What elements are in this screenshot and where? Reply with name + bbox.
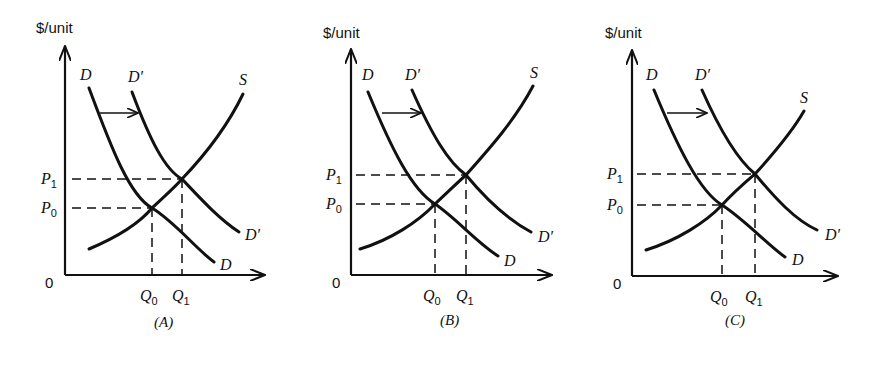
tick-q1: Q1 xyxy=(456,287,474,307)
tick-q1: Q1 xyxy=(172,287,190,307)
origin-label: 0 xyxy=(332,274,340,291)
caption-a: (A) xyxy=(154,314,173,331)
label-d-top: D xyxy=(361,66,374,83)
tick-q0: Q0 xyxy=(140,287,158,307)
label-s: S xyxy=(800,89,808,106)
tick-q0: Q0 xyxy=(710,288,728,308)
label-d-bottom: D xyxy=(791,251,804,268)
supply-curve-s xyxy=(89,94,243,249)
label-s: S xyxy=(530,64,538,81)
tick-p1: P1 xyxy=(606,165,623,185)
origin-label: 0 xyxy=(45,274,53,291)
tick-p1: P1 xyxy=(40,170,57,190)
demand-curve-d xyxy=(89,88,214,262)
tick-p0: P0 xyxy=(325,195,342,215)
equilibrium-dashed-lines xyxy=(72,179,182,274)
tick-p0: P0 xyxy=(40,199,57,219)
tick-p1: P1 xyxy=(325,166,342,186)
demand-curve-d xyxy=(368,92,498,256)
supply-demand-figure: $/unit 0 D D′ S D′ D P1 P0 Q0 Q1 (A) $/u… xyxy=(0,0,874,385)
label-d-bottom: D xyxy=(219,256,232,273)
label-d-prime-top: D′ xyxy=(127,68,144,85)
panel-a: $/unit 0 D D′ S D′ D P1 P0 Q0 Q1 (A) xyxy=(36,19,265,331)
label-d-prime-top: D′ xyxy=(404,66,421,83)
label-d-bottom: D xyxy=(503,252,516,269)
label-d-prime-top: D′ xyxy=(694,66,711,83)
panel-b: $/unit 0 D D′ S D′ D P1 P0 Q0 Q1 (B) xyxy=(323,24,554,329)
label-d-top: D xyxy=(645,66,658,83)
caption-b: (B) xyxy=(440,312,459,329)
supply-curve-s xyxy=(360,86,533,249)
label-d-prime-bottom: D′ xyxy=(244,226,261,243)
y-axis-label: $/unit xyxy=(36,19,74,36)
y-axis-label: $/unit xyxy=(323,24,361,41)
y-axis-label: $/unit xyxy=(605,24,643,41)
panel-c: $/unit 0 D D′ S D′ D P1 P0 Q0 Q1 (C) xyxy=(605,24,841,329)
origin-label: 0 xyxy=(613,275,621,292)
tick-p0: P0 xyxy=(606,196,623,216)
label-d-top: D xyxy=(79,66,92,83)
label-d-prime-bottom: D′ xyxy=(824,226,841,243)
tick-q0: Q0 xyxy=(423,287,441,307)
caption-c: (C) xyxy=(725,312,745,329)
supply-curve-s xyxy=(646,111,804,250)
tick-q1: Q1 xyxy=(745,288,763,308)
label-d-prime-bottom: D′ xyxy=(537,228,554,245)
label-s: S xyxy=(239,71,247,88)
